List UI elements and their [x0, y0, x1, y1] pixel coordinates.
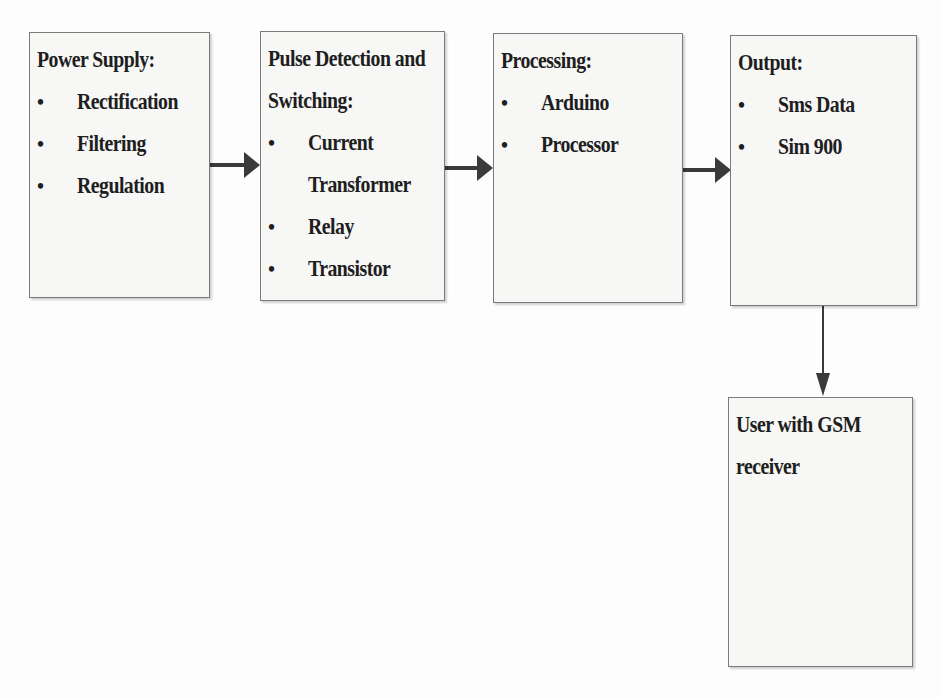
bullet-icon: • [268, 206, 275, 248]
bullet-icon: • [501, 124, 508, 166]
list-item: •Regulation [37, 165, 203, 207]
block-user-gsm-receiver: User with GSM receiver [728, 397, 913, 667]
block-title: Processing: [501, 40, 652, 82]
block-title-line-1: Pulse Detection and [268, 38, 414, 80]
block-output: Output: •Sms Data •Sim 900 [730, 35, 917, 306]
list-item: •Relay [268, 206, 438, 248]
list-item: •Sim 900 [738, 126, 910, 168]
arrow-output-to-user [816, 306, 830, 396]
list-item: •Sms Data [738, 84, 910, 126]
arrow-power-to-pulse [210, 152, 260, 178]
block-items: •CurrentTransformer •Relay •Transistor [268, 122, 438, 290]
list-item: •Filtering [37, 123, 203, 165]
bullet-icon: • [37, 81, 44, 123]
block-processing: Processing: •Arduino •Processor [493, 33, 683, 303]
list-item: •CurrentTransformer [268, 122, 438, 206]
block-items: •Arduino •Processor [501, 82, 676, 166]
bullet-icon: • [37, 165, 44, 207]
list-item: •Rectification [37, 81, 203, 123]
bullet-icon: • [268, 122, 275, 164]
block-items: •Rectification •Filtering •Regulation [37, 81, 203, 207]
bullet-icon: • [268, 248, 275, 290]
list-item: •Arduino [501, 82, 676, 124]
block-title: Power Supply: [37, 39, 180, 81]
bullet-icon: • [37, 123, 44, 165]
block-title-line-1: User with GSM [736, 404, 882, 446]
list-item: •Processor [501, 124, 676, 166]
block-power-supply: Power Supply: •Rectification •Filtering … [29, 32, 210, 298]
bullet-icon: • [738, 84, 745, 126]
list-item: •Transistor [268, 248, 438, 290]
block-title-line-2: receiver [736, 446, 882, 488]
block-title: Output: [738, 42, 886, 84]
arrow-pulse-to-processing [445, 155, 493, 181]
bullet-icon: • [501, 82, 508, 124]
block-items: •Sms Data •Sim 900 [738, 84, 910, 168]
block-title-line-2: Switching: [268, 80, 414, 122]
bullet-icon: • [738, 126, 745, 168]
block-pulse-detection: Pulse Detection and Switching: •CurrentT… [260, 31, 445, 301]
arrow-processing-to-output [683, 157, 731, 183]
